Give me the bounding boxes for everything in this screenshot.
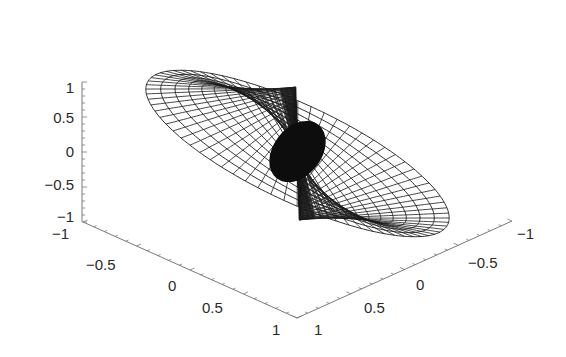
surface-plot bbox=[0, 0, 566, 357]
y-tick-label: 0.5 bbox=[364, 300, 385, 315]
x-tick bbox=[276, 307, 279, 308]
z-tick-label: −1 bbox=[14, 209, 74, 224]
x-tick bbox=[244, 292, 249, 294]
y-tick bbox=[316, 307, 319, 308]
y-tick bbox=[370, 283, 373, 284]
x-tick bbox=[94, 226, 97, 227]
z-tick-label: 0 bbox=[14, 144, 74, 159]
y-tick-label: −0.5 bbox=[468, 255, 498, 270]
x-tick bbox=[169, 259, 172, 260]
x-tick bbox=[126, 240, 129, 241]
x-tick bbox=[137, 244, 142, 246]
x-tick bbox=[104, 230, 107, 231]
x-tick-label: 0.5 bbox=[202, 300, 223, 315]
y-tick-label: −1 bbox=[517, 226, 534, 241]
y-tick bbox=[499, 225, 502, 226]
x-tick bbox=[265, 302, 268, 303]
y-tick bbox=[488, 230, 491, 231]
y-tick bbox=[337, 297, 340, 298]
y-tick bbox=[391, 273, 394, 274]
x-tick bbox=[190, 268, 195, 270]
x-tick bbox=[211, 278, 214, 279]
x-tick-label: 1 bbox=[272, 322, 280, 337]
y-tick bbox=[477, 234, 480, 235]
z-tick-label: 0.5 bbox=[14, 110, 74, 125]
y-tick bbox=[293, 316, 298, 318]
x-tick bbox=[158, 254, 161, 255]
y-tick bbox=[454, 243, 459, 245]
x-tick-label: −1 bbox=[52, 226, 69, 241]
x-tick bbox=[254, 298, 257, 299]
y-tick bbox=[413, 263, 416, 264]
x-tick bbox=[286, 312, 289, 313]
x-tick-label: 0 bbox=[168, 278, 176, 293]
y-tick bbox=[508, 219, 513, 221]
wireframe-surface bbox=[146, 70, 449, 236]
x-tick bbox=[297, 316, 302, 318]
y-tick bbox=[445, 249, 448, 250]
y-tick-label: 1 bbox=[314, 322, 322, 337]
x-tick bbox=[147, 250, 150, 251]
y-tick bbox=[466, 239, 469, 240]
y-tick bbox=[380, 278, 383, 279]
z-tick-label: −0.5 bbox=[14, 177, 74, 192]
y-tick bbox=[359, 288, 362, 289]
x-tick bbox=[222, 283, 225, 284]
x-tick bbox=[233, 288, 236, 289]
x-tick bbox=[179, 264, 182, 265]
x-tick-label: −0.5 bbox=[86, 257, 116, 272]
y-tick-label: 0 bbox=[416, 277, 424, 292]
y-tick bbox=[327, 302, 330, 303]
y-tick bbox=[423, 259, 426, 260]
y-tick bbox=[346, 292, 351, 294]
z-tick-label: 1 bbox=[14, 80, 74, 95]
y-tick bbox=[305, 312, 308, 313]
y-tick bbox=[434, 254, 437, 255]
y-tick bbox=[400, 268, 405, 270]
x-tick bbox=[115, 235, 118, 236]
x-tick bbox=[201, 274, 204, 275]
